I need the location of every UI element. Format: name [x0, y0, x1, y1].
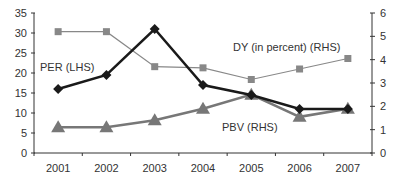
square-marker — [151, 63, 158, 70]
right-tick-label: 5 — [380, 30, 386, 42]
chart: 0510152025303501234562001200220032004200… — [0, 0, 399, 183]
annotation-dy: DY (in percent) (RHS) — [233, 41, 340, 53]
square-marker — [248, 76, 255, 83]
right-tick-label: 2 — [380, 100, 386, 112]
series-line — [58, 32, 348, 80]
right-tick-label: 4 — [380, 54, 386, 66]
left-tick-label: 20 — [15, 67, 27, 79]
right-tick-label: 6 — [380, 7, 386, 19]
annotation-pbv: PBV (RHS) — [222, 121, 278, 133]
left-tick-label: 25 — [15, 47, 27, 59]
square-marker — [296, 66, 303, 73]
annotation-per: PER (LHS) — [40, 61, 94, 73]
line-chart: 0510152025303501234562001200220032004200… — [0, 0, 399, 183]
square-marker — [103, 28, 110, 35]
series-square — [55, 28, 352, 83]
right-tick-label: 0 — [380, 147, 386, 159]
x-tick-label: 2004 — [191, 162, 215, 174]
diamond-marker — [53, 84, 63, 94]
left-tick-label: 15 — [15, 87, 27, 99]
left-tick-label: 0 — [21, 147, 27, 159]
x-tick-label: 2003 — [142, 162, 166, 174]
x-tick-label: 2006 — [287, 162, 311, 174]
left-tick-label: 35 — [15, 7, 27, 19]
x-tick-label: 2005 — [239, 162, 263, 174]
left-tick-label: 30 — [15, 27, 27, 39]
square-marker — [344, 55, 351, 62]
x-tick-label: 2002 — [94, 162, 118, 174]
square-marker — [55, 28, 62, 35]
square-marker — [200, 64, 207, 71]
left-tick-label: 5 — [21, 127, 27, 139]
right-tick-label: 3 — [380, 77, 386, 89]
right-tick-label: 1 — [380, 124, 386, 136]
diamond-marker — [295, 104, 305, 114]
x-tick-label: 2007 — [336, 162, 360, 174]
x-tick-label: 2001 — [46, 162, 70, 174]
left-tick-label: 10 — [15, 107, 27, 119]
